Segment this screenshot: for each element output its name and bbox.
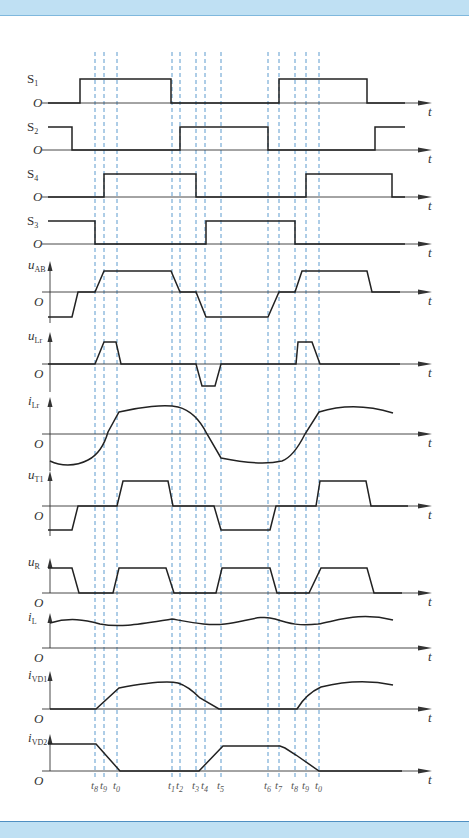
axis-t-label: t xyxy=(428,710,432,725)
time-marker-label: t4 xyxy=(201,779,208,794)
waveform-traces: tOS1tOS2tOS4tOS3tOuABtOuLrtOiLrtOuT1tOuR… xyxy=(27,71,432,788)
waveform xyxy=(50,617,393,626)
axis-t-label: t xyxy=(428,245,432,260)
axis-t-label: t xyxy=(428,365,432,380)
trace-s4: tOS4 xyxy=(27,166,432,213)
waveform xyxy=(48,174,405,197)
trace-label: iVD1 xyxy=(28,667,47,684)
time-marker-labels: t8t9t0t1t2t3t4t5t6t7t8t9t0 xyxy=(91,779,322,794)
time-marker-label: t9 xyxy=(100,779,107,794)
trace-s1: tOS1 xyxy=(27,71,432,119)
trace-label: uT1 xyxy=(28,467,43,484)
waveform xyxy=(48,79,405,103)
value-axis-arrow-icon xyxy=(48,671,53,681)
origin-label: O xyxy=(33,189,43,204)
trace-ulr: tOuLr xyxy=(28,328,432,392)
value-axis-arrow-icon xyxy=(48,558,53,568)
trace-ilr: tOiLr xyxy=(28,393,432,471)
origin-label: O xyxy=(34,773,44,788)
time-marker-label: t6 xyxy=(264,779,271,794)
origin-label: O xyxy=(33,236,43,251)
axis-t-label: t xyxy=(428,507,432,522)
value-axis-arrow-icon xyxy=(48,613,53,623)
trace-label: S4 xyxy=(27,166,38,183)
time-marker-label: t3 xyxy=(192,779,199,794)
origin-label: O xyxy=(33,142,43,157)
waveform xyxy=(48,568,402,593)
origin-label: O xyxy=(33,95,43,110)
waveform xyxy=(50,682,393,709)
trace-label: iL xyxy=(28,609,37,626)
trace-uab: tOuAB xyxy=(28,257,432,323)
trace-il: tOiL xyxy=(28,609,432,665)
waveform xyxy=(48,271,400,317)
time-marker-label: t7 xyxy=(275,779,283,794)
origin-label: O xyxy=(34,595,44,610)
waveform xyxy=(48,221,405,244)
value-axis-arrow-icon xyxy=(48,471,53,481)
value-axis-arrow-icon xyxy=(48,397,53,407)
origin-label: O xyxy=(34,711,44,726)
trace-ur: tOuR xyxy=(28,554,432,610)
time-marker-label: t8 xyxy=(91,779,98,794)
origin-label: O xyxy=(34,366,44,381)
axis-t-label: t xyxy=(428,198,432,213)
axis-t-label: t xyxy=(428,151,432,166)
value-axis-arrow-icon xyxy=(48,734,53,744)
waveform xyxy=(50,406,393,465)
waveform xyxy=(48,744,402,771)
trace-label: uAB xyxy=(28,257,46,274)
time-marker-lines xyxy=(95,52,319,778)
time-marker-label: t5 xyxy=(217,779,224,794)
trace-s2: tOS2 xyxy=(27,119,432,166)
trace-ivd1: tOiVD1 xyxy=(28,667,432,726)
time-marker-label: t0 xyxy=(315,779,322,794)
trace-ivd2: tOiVD2 xyxy=(28,730,432,788)
origin-label: O xyxy=(34,508,44,523)
value-axis-arrow-icon xyxy=(48,261,53,271)
trace-label: S1 xyxy=(27,71,38,88)
trace-ut1: tOuT1 xyxy=(28,467,432,536)
origin-label: O xyxy=(34,650,44,665)
value-axis-arrow-icon xyxy=(48,332,53,342)
axis-t-label: t xyxy=(428,772,432,787)
trace-label: uR xyxy=(28,554,41,571)
trace-label: S3 xyxy=(27,213,38,230)
trace-label: S2 xyxy=(27,119,38,136)
time-marker-label: t2 xyxy=(176,779,183,794)
axis-t-label: t xyxy=(428,649,432,664)
origin-label: O xyxy=(34,436,44,451)
trace-s3: tOS3 xyxy=(27,213,432,260)
axis-t-label: t xyxy=(428,293,432,308)
trace-label: iLr xyxy=(28,393,40,410)
axis-t-label: t xyxy=(428,594,432,609)
waveform xyxy=(48,127,405,150)
origin-label: O xyxy=(34,294,44,309)
trace-label: iVD2 xyxy=(28,730,47,747)
trace-label: uLr xyxy=(28,328,42,345)
time-marker-label: t1 xyxy=(168,779,175,794)
axis-t-label: t xyxy=(428,435,432,450)
waveform xyxy=(48,481,408,530)
axis-t-label: t xyxy=(428,104,432,119)
time-marker-label: t0 xyxy=(113,779,120,794)
time-marker-label: t8 xyxy=(291,779,298,794)
time-marker-label: t9 xyxy=(302,779,309,794)
